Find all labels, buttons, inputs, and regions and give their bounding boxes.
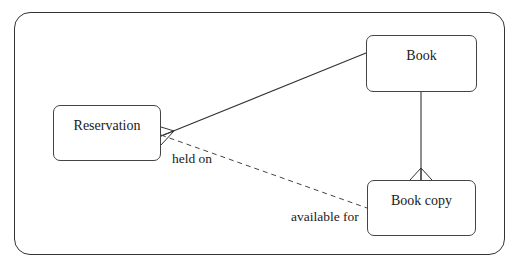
entity-label: Book — [367, 48, 476, 64]
reservation-bookcopy-dashed-line — [161, 135, 367, 208]
entity-book-copy[interactable]: Book copy — [367, 180, 476, 236]
diagram-canvas: Reservation Book Book copy held on avail… — [0, 0, 519, 268]
relationship-label-available-for: available for — [291, 209, 359, 225]
entity-label: Reservation — [54, 118, 160, 134]
entity-reservation[interactable]: Reservation — [53, 105, 161, 161]
entity-label: Book copy — [368, 193, 475, 209]
entity-book[interactable]: Book — [366, 35, 477, 92]
reservation-book-line — [161, 53, 366, 136]
crows-foot-icon — [410, 168, 432, 180]
relationship-label-held-on: held on — [172, 151, 212, 167]
